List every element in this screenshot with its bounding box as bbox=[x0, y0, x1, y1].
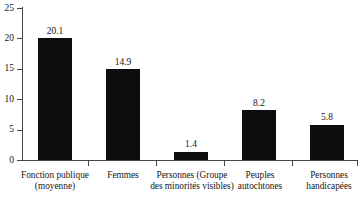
x-axis-tick bbox=[357, 161, 358, 166]
y-axis-tick-label: 20 bbox=[0, 34, 14, 44]
category-label-line2: des minorités visibles) bbox=[144, 181, 240, 192]
x-axis-category-label: Personnes handicapées bbox=[296, 170, 362, 192]
bar-value-label: 8.2 bbox=[235, 98, 283, 108]
x-axis-category-label: Peuples autochtones bbox=[228, 170, 292, 192]
bar-value-label: 14.9 bbox=[99, 57, 147, 67]
y-axis-tick bbox=[17, 130, 22, 131]
x-axis-category-label: Personnes (Groupe des minorités visibles… bbox=[144, 170, 240, 192]
category-label-line2: handicapées bbox=[296, 181, 362, 192]
category-label-line1: Fonction publique bbox=[21, 170, 89, 180]
category-label-line1: Peuples bbox=[246, 170, 275, 180]
bar-chart: 0 5 10 15 20 25 20.1 14.9 1.4 8.2 5.8 Fo… bbox=[0, 0, 363, 198]
x-axis-category-label: Fonction publique (moyenne) bbox=[9, 170, 101, 192]
bar-personnes-handicapees[interactable] bbox=[310, 125, 344, 160]
bar-value-label: 1.4 bbox=[167, 139, 215, 149]
category-label-line1: Femmes bbox=[107, 170, 139, 180]
bar-value-label: 20.1 bbox=[31, 26, 79, 36]
bar-femmes[interactable] bbox=[106, 69, 140, 160]
x-axis-tick bbox=[292, 161, 293, 166]
category-label-line1: Personnes bbox=[310, 170, 348, 180]
bar-peuples-autochtones[interactable] bbox=[242, 110, 276, 160]
x-axis-line bbox=[22, 160, 358, 161]
y-axis-tick bbox=[17, 38, 22, 39]
bar-fonction-publique[interactable] bbox=[38, 38, 72, 160]
bar-minorites-visibles[interactable] bbox=[174, 152, 208, 161]
y-axis-tick bbox=[17, 160, 22, 161]
category-label-line1: Personnes (Groupe bbox=[156, 170, 227, 180]
y-axis-tick-label: 10 bbox=[0, 95, 14, 105]
x-axis-tick bbox=[88, 161, 89, 166]
y-axis-tick bbox=[17, 99, 22, 100]
y-axis-tick-label: 25 bbox=[0, 4, 14, 14]
y-axis-tick-label: 15 bbox=[0, 64, 14, 74]
x-axis-tick bbox=[224, 161, 225, 166]
category-label-line2: autochtones bbox=[228, 181, 292, 192]
y-axis-tick bbox=[17, 69, 22, 70]
y-axis-line bbox=[22, 7, 23, 161]
y-axis-tick-label: 5 bbox=[0, 125, 14, 135]
bar-value-label: 5.8 bbox=[303, 112, 351, 122]
y-axis-tick bbox=[17, 8, 22, 9]
x-axis-tick bbox=[156, 161, 157, 166]
category-label-line2: (moyenne) bbox=[9, 181, 101, 192]
y-axis-tick-label: 0 bbox=[0, 156, 14, 166]
